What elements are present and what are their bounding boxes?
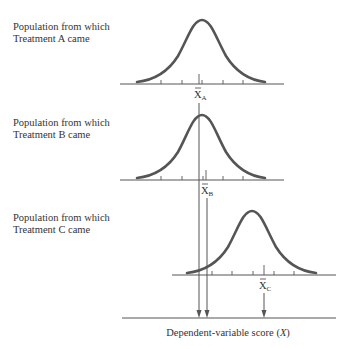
arrow-c-head-icon: [262, 310, 267, 318]
panel-a-label-line1: Population from which: [13, 21, 111, 32]
panel-b-normal-curve: [137, 115, 265, 178]
panel-c-ticks: [212, 265, 294, 275]
panel-c-label-line1: Population from which: [13, 212, 111, 223]
sampling-distribution-diagram: Population from which Treatment A came X…: [0, 0, 346, 349]
panel-b: Population from which Treatment B came X…: [13, 115, 284, 198]
panel-c-label-line2: Treatment C came: [13, 224, 91, 235]
arrow-a-head-icon: [197, 310, 202, 318]
panel-b-ticks: [161, 170, 243, 180]
panel-b-label-line1: Population from which: [13, 117, 111, 128]
panel-b-mean-label: XB: [201, 185, 214, 198]
arrow-b-head-icon: [205, 310, 210, 318]
panel-c: Population from which Treatment C came X…: [13, 211, 336, 293]
dependent-variable-label: Dependent-variable score (X): [166, 327, 290, 339]
panel-a-mean-label: XA: [194, 89, 207, 102]
panel-a-label-line2: Treatment A came: [13, 33, 90, 44]
panel-a-ticks: [161, 74, 243, 84]
panel-b-label-line2: Treatment B came: [13, 129, 91, 140]
panel-a-normal-curve: [137, 20, 265, 82]
mean-projection-arrows: [197, 103, 267, 318]
panel-a: Population from which Treatment A came X…: [13, 20, 284, 102]
panel-c-normal-curve: [187, 211, 316, 273]
panel-c-mean-label: XC: [259, 280, 272, 293]
bottom-axis: Dependent-variable score (X): [122, 318, 336, 339]
